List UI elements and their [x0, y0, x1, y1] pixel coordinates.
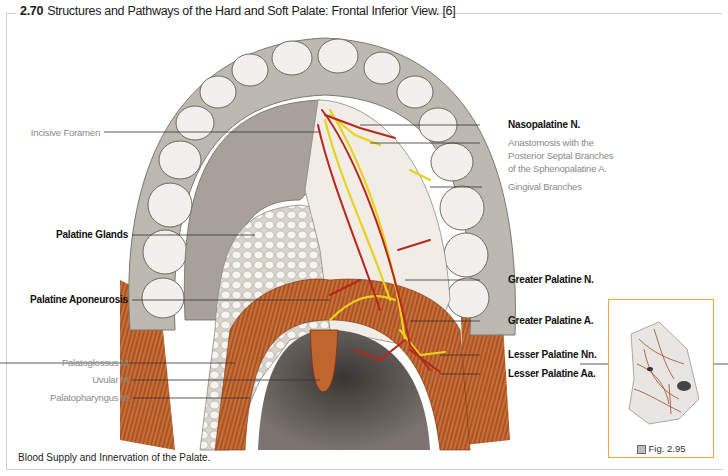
- label-palatine-aponeurosis: Palatine Aponeurosis: [30, 294, 128, 305]
- figure-caption: Blood Supply and Innervation of the Pala…: [18, 452, 210, 463]
- label-lesser-palatine-aa: Lesser Palatine Aa.: [508, 368, 596, 379]
- figure-reference-icon: [637, 445, 646, 454]
- label-uvular: Uvular M.: [92, 374, 131, 385]
- label-lesser-palatine-nn: Lesser Palatine Nn.: [508, 349, 596, 360]
- label-nasopalatine-n: Nasopalatine N.: [508, 119, 580, 130]
- label-anastomosis-line1: Anastomosis with the: [508, 137, 594, 148]
- label-palatine-glands: Palatine Glands: [56, 229, 128, 240]
- label-palatopharyngus: Palatopharyngus M.: [50, 392, 131, 403]
- label-anastomosis-line2: Posterior Septal Branches: [508, 150, 613, 161]
- label-anastomosis-line3: of the Sphenopalatine A.: [508, 163, 607, 174]
- label-greater-palatine-a: Greater Palatine A.: [508, 315, 593, 326]
- label-palatoglossus: Palatoglossus M.: [62, 357, 131, 368]
- label-gingival-branches: Gingival Branches: [508, 181, 582, 192]
- label-greater-palatine-n: Greater Palatine N.: [508, 274, 594, 285]
- thumbnail-caption[interactable]: Fig. 2.95: [609, 443, 713, 454]
- nasal-cavity-thumbnail-image: [609, 304, 712, 434]
- fig-2-95-thumbnail[interactable]: Fig. 2.95: [608, 299, 714, 458]
- thumbnail-label: Fig. 2.95: [649, 443, 686, 454]
